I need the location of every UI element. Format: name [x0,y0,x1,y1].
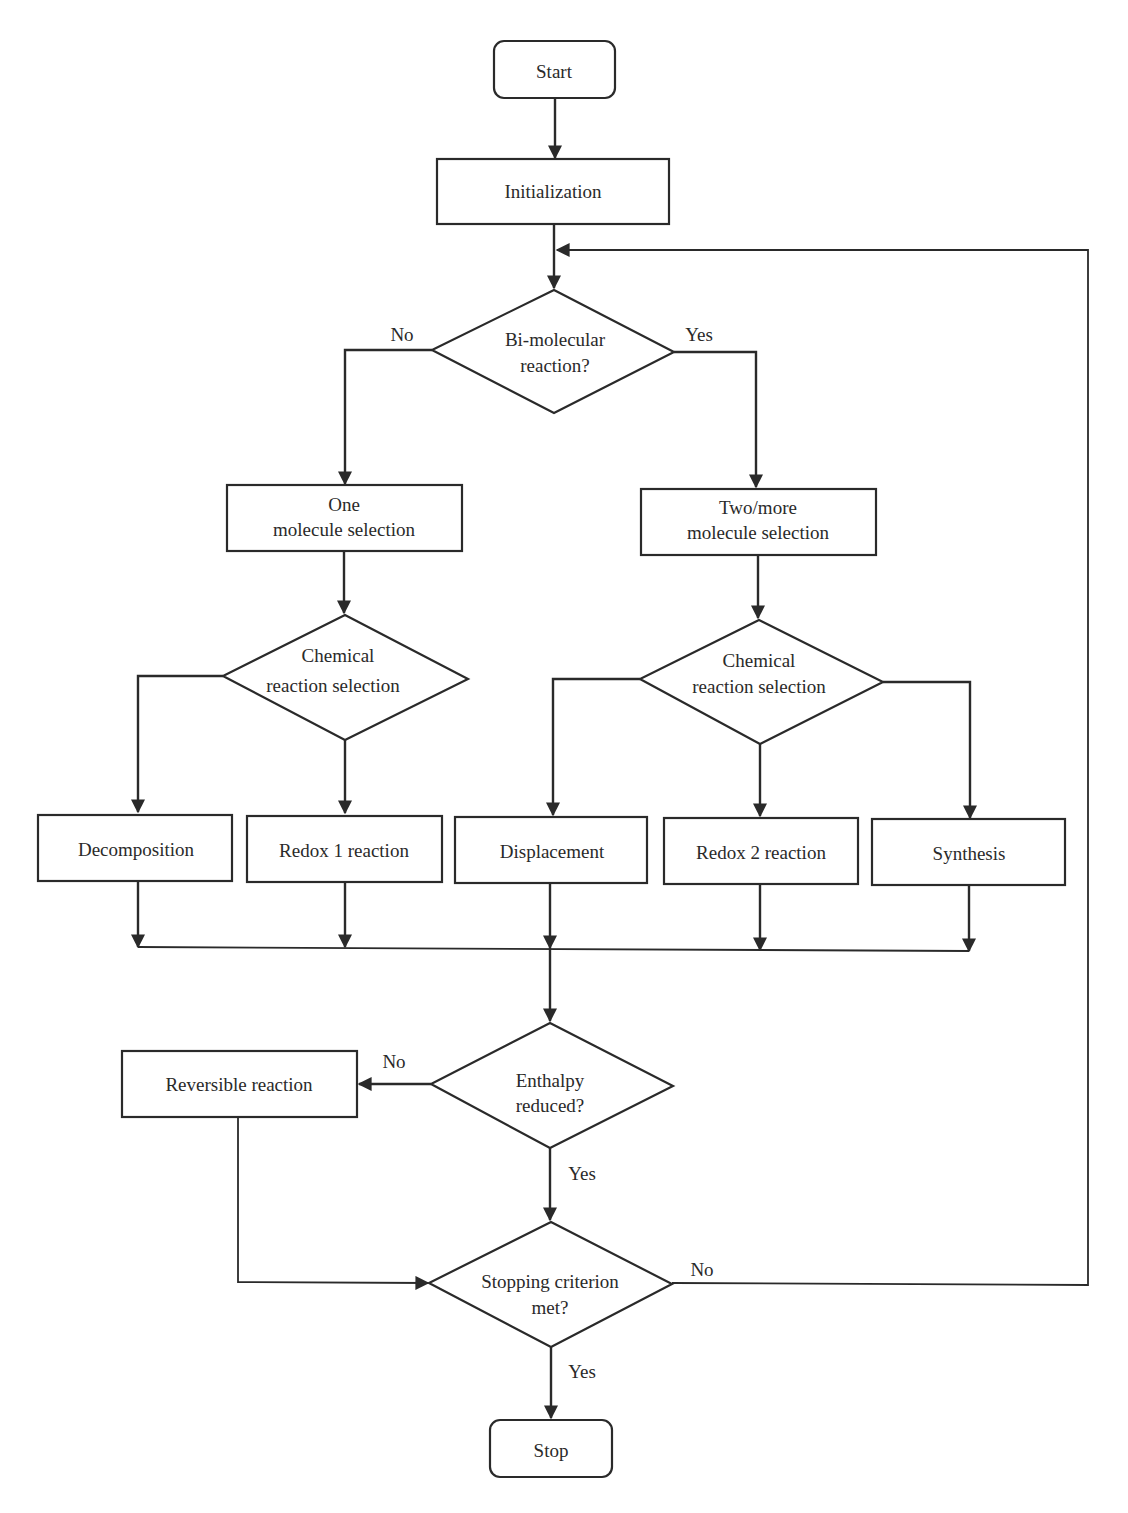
stopping-line1: Stopping criterion [481,1271,619,1292]
flowchart-svg: Start Initialization Bi-molecular reacti… [0,0,1128,1513]
node-two-molecule-selection: Two/more molecule selection [641,489,876,555]
initialization-label: Initialization [504,181,602,202]
start-label: Start [536,61,573,82]
enthalpy-line1: Enthalpy [516,1070,585,1091]
node-reversible-reaction: Reversible reaction [122,1051,357,1117]
node-initialization: Initialization [437,159,669,224]
enthalpy-no-label: No [382,1051,405,1072]
one-molecule-line1: One [328,494,360,515]
reversible-label: Reversible reaction [165,1074,313,1095]
node-stopping-decision: Stopping criterion met? [429,1222,672,1347]
redox2-label: Redox 2 reaction [696,842,826,863]
flowchart-canvas: Start Initialization Bi-molecular reacti… [0,0,1128,1513]
chem-right-line1: Chemical [723,650,796,671]
chem-right-line2: reaction selection [692,676,826,697]
edges [138,98,1088,1418]
stopping-line2: met? [532,1297,569,1318]
node-displacement: Displacement [455,817,647,883]
one-molecule-line2: molecule selection [273,519,415,540]
node-decomposition: Decomposition [38,815,232,881]
bimolecular-line2: reaction? [520,355,590,376]
stop-label: Stop [534,1440,569,1461]
stopping-no-label: No [690,1259,713,1280]
bimolecular-yes-label: Yes [685,324,713,345]
node-redox2: Redox 2 reaction [664,818,858,884]
displacement-label: Displacement [500,841,605,862]
node-bimolecular-decision: Bi-molecular reaction? [432,290,674,413]
two-molecule-line1: Two/more [719,497,797,518]
decomposition-label: Decomposition [78,839,195,860]
edge-reversible-stopping [238,1118,428,1283]
edge-stopping-no-loop [557,250,1088,1285]
node-one-molecule-selection: One molecule selection [227,485,462,551]
node-synthesis: Synthesis [872,819,1065,885]
merge-line [138,947,969,951]
edge-chem-left-decomposition [138,676,223,812]
enthalpy-line2: reduced? [516,1095,585,1116]
synthesis-label: Synthesis [933,843,1006,864]
edge-chem-right-displacement [553,679,640,815]
bimolecular-no-label: No [390,324,413,345]
enthalpy-yes-label: Yes [568,1163,596,1184]
edge-bimolecular-no [345,350,432,484]
chem-left-line2: reaction selection [266,675,400,696]
chem-left-line1: Chemical [302,645,375,666]
node-chem-selection-right: Chemical reaction selection [640,620,883,744]
two-molecule-line2: molecule selection [687,522,829,543]
bimolecular-line1: Bi-molecular [505,329,606,350]
node-chem-selection-left: Chemical reaction selection [223,615,468,740]
node-redox1: Redox 1 reaction [247,816,442,882]
edge-bimolecular-yes [674,352,756,487]
edge-chem-right-synthesis [883,682,970,818]
stopping-yes-label: Yes [568,1361,596,1382]
node-start: Start [494,41,615,98]
node-enthalpy-decision: Enthalpy reduced? [431,1023,673,1148]
redox1-label: Redox 1 reaction [279,840,409,861]
node-stop: Stop [490,1420,612,1477]
